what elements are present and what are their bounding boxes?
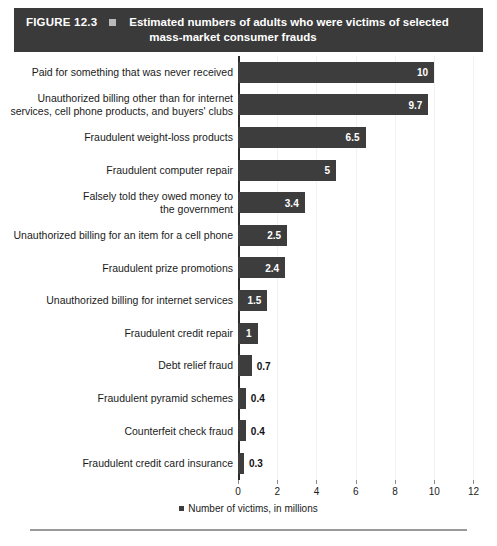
category-label: Fraudulent credit card insurance — [0, 457, 236, 470]
bar-row: Unauthorized billing for an item for a c… — [0, 219, 497, 252]
bar-track: 1.5 — [236, 284, 497, 317]
category-label: Fraudulent pyramid schemes — [0, 392, 236, 405]
bar[interactable] — [238, 355, 252, 376]
bar-row: Unauthorized billing other than for inte… — [0, 89, 497, 122]
bar-value-label: 9.7 — [404, 99, 422, 110]
bar-track: 0.4 — [236, 415, 497, 448]
category-label: Paid for something that was never receiv… — [0, 66, 236, 79]
figure-title-line1: Estimated numbers of adults who were vic… — [129, 16, 449, 28]
bar-row: Unauthorized billing for internet servic… — [0, 284, 497, 317]
bar-track: 0.7 — [236, 349, 497, 382]
category-label: Unauthorized billing other than for inte… — [0, 92, 236, 117]
square-swatch-icon — [179, 506, 184, 511]
category-label: Unauthorized billing for an item for a c… — [0, 229, 236, 242]
x-axis-tick-label: 6 — [353, 486, 359, 497]
category-label: Counterfeit check fraud — [0, 425, 236, 438]
x-axis-tick — [277, 480, 278, 484]
bar-value-label: 0.4 — [251, 425, 265, 436]
category-label: Falsely told they owed money to the gove… — [0, 190, 236, 215]
bar-row: Falsely told they owed money to the gove… — [0, 186, 497, 219]
bar-value-label: 3.4 — [281, 197, 299, 208]
square-marker-icon — [109, 19, 116, 26]
bar-track: 0.4 — [236, 382, 497, 415]
bar-value-label: 1.5 — [243, 295, 261, 306]
bar-track: 5 — [236, 154, 497, 187]
bar-row: Debt relief fraud0.7 — [0, 349, 497, 382]
x-axis-tick — [395, 480, 396, 484]
category-label: Fraudulent computer repair — [0, 164, 236, 177]
legend-label: Number of victims, in millions — [188, 503, 317, 514]
bar-track: 1 — [236, 317, 497, 350]
x-axis-tick — [316, 480, 317, 484]
bar-row: Counterfeit check fraud0.4 — [0, 415, 497, 448]
figure-container: FIGURE 12.3 Estimated numbers of adults … — [0, 0, 497, 546]
bar-track: 6.5 — [236, 121, 497, 154]
bar-value-label: 0.4 — [251, 393, 265, 404]
x-axis-tick — [238, 480, 239, 484]
bar-row: Fraudulent pyramid schemes0.4 — [0, 382, 497, 415]
figure-number: FIGURE 12.3 — [26, 15, 97, 29]
plot-area: Paid for something that was never receiv… — [0, 56, 497, 488]
x-axis-tick — [356, 480, 357, 484]
bar-track: 2.5 — [236, 219, 497, 252]
bar[interactable] — [238, 453, 244, 474]
bar-row: Paid for something that was never receiv… — [0, 56, 497, 89]
category-label: Fraudulent prize promotions — [0, 262, 236, 275]
bar-track: 2.4 — [236, 252, 497, 285]
bar-track: 10 — [236, 56, 497, 89]
bar-track: 9.7 — [236, 89, 497, 122]
category-label: Fraudulent credit repair — [0, 327, 236, 340]
x-axis-tick-label: 8 — [392, 486, 398, 497]
bar-value-label: 5 — [312, 165, 330, 176]
bar-track: 3.4 — [236, 186, 497, 219]
bar-value-label: 0.7 — [257, 360, 271, 371]
bar-value-label: 2.4 — [261, 262, 279, 273]
x-axis-tick-label: 4 — [314, 486, 320, 497]
legend: Number of victims, in millions — [0, 503, 497, 514]
bar-value-label: 2.5 — [263, 230, 281, 241]
bar-row: Fraudulent computer repair5 — [0, 154, 497, 187]
bar-row: Fraudulent credit card insurance0.3 — [0, 447, 497, 480]
bar-row: Fraudulent credit repair1 — [0, 317, 497, 350]
bar-row: Fraudulent prize promotions2.4 — [0, 252, 497, 285]
x-axis-tick — [434, 480, 435, 484]
figure-header: FIGURE 12.3 Estimated numbers of adults … — [14, 8, 483, 52]
figure-title-line2: mass-market consumer frauds — [129, 30, 473, 45]
category-label: Debt relief fraud — [0, 359, 236, 372]
bar-value-label: 1 — [234, 328, 252, 339]
bar[interactable] — [238, 388, 246, 409]
x-axis-tick-label: 0 — [235, 486, 241, 497]
bar-value-label: 6.5 — [342, 132, 360, 143]
x-axis-tick — [473, 480, 474, 484]
bar[interactable] — [238, 62, 434, 83]
figure-title: Estimated numbers of adults who were vic… — [129, 15, 473, 45]
source-divider — [30, 529, 467, 531]
bar-value-label: 10 — [410, 67, 428, 78]
bar[interactable] — [238, 94, 428, 115]
category-label: Unauthorized billing for internet servic… — [0, 294, 236, 307]
category-label: Fraudulent weight-loss products — [0, 131, 236, 144]
bar-row: Fraudulent weight-loss products6.5 — [0, 121, 497, 154]
bar-track: 0.3 — [236, 447, 497, 480]
bar[interactable] — [238, 420, 246, 441]
x-axis-tick-label: 10 — [429, 486, 440, 497]
x-axis-tick-label: 12 — [468, 486, 479, 497]
x-axis-tick-label: 2 — [274, 486, 280, 497]
bar-value-label: 0.3 — [249, 458, 263, 469]
